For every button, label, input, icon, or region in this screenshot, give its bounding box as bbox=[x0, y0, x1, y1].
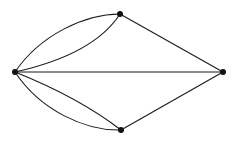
graph-diagram bbox=[0, 0, 236, 146]
vertex-left bbox=[12, 69, 18, 75]
edge-left-top-outer bbox=[15, 14, 120, 72]
vertex-top bbox=[117, 11, 123, 17]
edges bbox=[15, 14, 223, 130]
vertex-bottom bbox=[118, 127, 124, 133]
edge-left-top-inner bbox=[15, 14, 120, 72]
edge-bottom-right bbox=[121, 72, 223, 130]
edge-top-right bbox=[120, 14, 223, 72]
edge-left-bottom-outer bbox=[15, 72, 121, 130]
vertex-right bbox=[220, 69, 226, 75]
edge-left-bottom-inner bbox=[15, 72, 121, 130]
